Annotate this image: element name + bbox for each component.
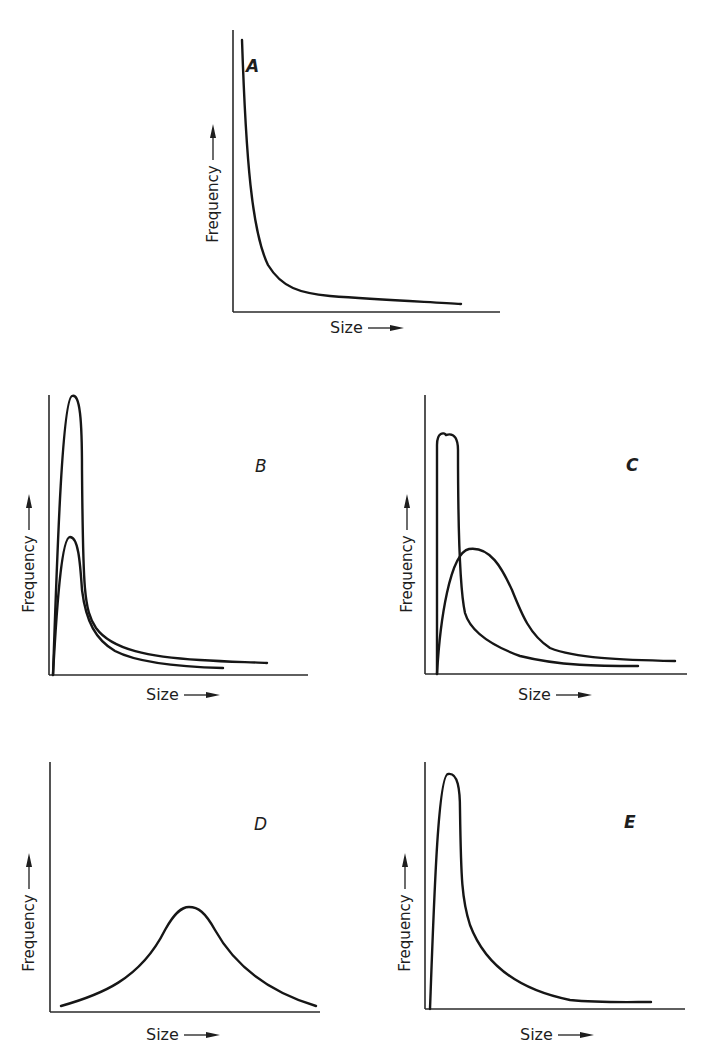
panel-letter: D [254, 814, 267, 834]
panel-d: DSizeFrequency [20, 762, 320, 1044]
panel-c: CSizeFrequency [398, 395, 687, 704]
x-axis-label: Size [146, 1025, 179, 1044]
x-axis-label: Size [146, 685, 179, 704]
y-axis-label: Frequency [20, 894, 38, 972]
y-arrowhead-icon [26, 853, 32, 867]
curve-curve [242, 40, 461, 304]
x-axis-label: Size [520, 1025, 553, 1044]
x-arrowhead-icon [206, 692, 220, 698]
y-arrowhead-icon [26, 494, 32, 508]
y-arrowhead-icon [402, 853, 408, 867]
y-axis-label: Frequency [398, 535, 416, 613]
y-axis-label: Frequency [20, 535, 38, 613]
x-arrowhead-icon [580, 1032, 594, 1038]
y-axis-label-group: Frequency [398, 494, 416, 613]
x-arrowhead-icon [578, 692, 592, 698]
y-axis-label-group: Frequency [396, 853, 414, 972]
y-arrowhead-icon [404, 494, 410, 508]
panel-b: BSizeFrequency [20, 395, 308, 704]
figure-canvas: ASizeFrequencyBSizeFrequencyCSizeFrequen… [0, 0, 710, 1057]
y-axis-label-group: Frequency [204, 124, 222, 243]
y-axis-label-group: Frequency [20, 494, 38, 613]
panel-letter: B [255, 456, 267, 476]
y-axis-label-group: Frequency [20, 853, 38, 972]
x-axis-label: Size [330, 318, 363, 337]
x-arrowhead-icon [206, 1032, 220, 1038]
y-arrowhead-icon [210, 124, 216, 138]
curve-bell-curve [61, 907, 316, 1006]
y-axis-label: Frequency [396, 894, 414, 972]
curve-broad-peak [437, 549, 675, 674]
x-axis-label: Size [518, 685, 551, 704]
curve-short-peak [53, 537, 223, 675]
curve-skewed-curve [430, 774, 651, 1009]
panel-letter: A [244, 56, 259, 76]
panel-letter: E [624, 812, 636, 832]
curve-tall-peak [53, 396, 267, 675]
panel-letter: C [626, 455, 639, 475]
y-axis-label: Frequency [204, 165, 222, 243]
panel-a: ASizeFrequency [204, 30, 500, 337]
panel-e: ESizeFrequency [396, 762, 685, 1044]
x-arrowhead-icon [390, 325, 404, 331]
